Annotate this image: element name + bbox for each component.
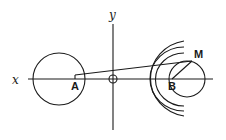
segment-A-M [75, 61, 192, 75]
y-axis-label: y [108, 8, 116, 22]
point-B-label: B [168, 80, 176, 92]
point-A-label: A [71, 80, 79, 92]
segment-B-M [172, 61, 192, 79]
diagram-canvas: x y A B M [0, 0, 226, 140]
point-M-label: M [194, 48, 203, 60]
x-axis-label: x [12, 73, 19, 87]
